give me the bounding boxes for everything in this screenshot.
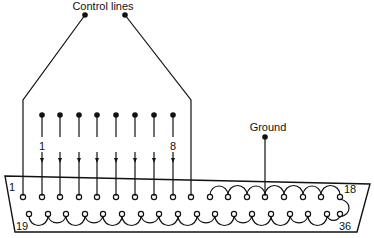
- pin-label-1: 1: [9, 181, 15, 193]
- ground-dot: [262, 134, 268, 140]
- pin-label-36: 36: [339, 220, 351, 232]
- pin-label-18: 18: [344, 183, 356, 195]
- ground-label: Ground: [250, 121, 287, 133]
- ground-bus-return: [340, 199, 349, 217]
- control-dot-right: [122, 12, 128, 18]
- control-lines-group: [42, 116, 173, 196]
- pin-label-19: 19: [16, 220, 28, 232]
- control-line-label-1: 1: [39, 140, 45, 152]
- bottom-row-pins: [26, 211, 342, 216]
- control-lines-label: Control lines: [72, 0, 134, 12]
- ground-bus-bottom: [29, 216, 340, 226]
- connector-wiring-diagram: Control lines Ground 1 8 1 18 19 36: [0, 0, 374, 238]
- control-line-label-8: 8: [170, 140, 176, 152]
- control-wire-left: [23, 15, 85, 196]
- control-dot-left: [82, 12, 88, 18]
- ground-bus-top: [210, 186, 340, 196]
- arrowheads: [40, 158, 175, 163]
- top-row-pins: [20, 194, 342, 199]
